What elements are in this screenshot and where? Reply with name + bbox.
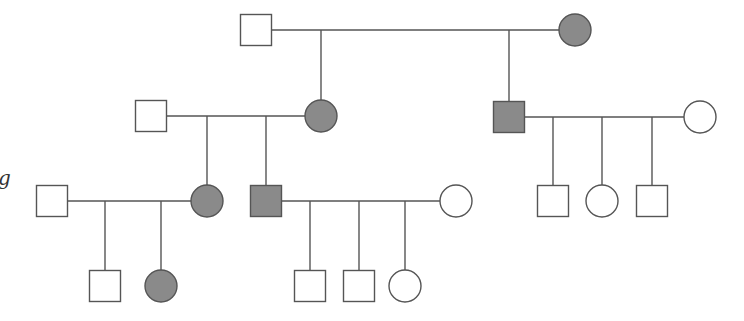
unaffected-male-iv-1 — [90, 271, 121, 302]
unaffected-male-ii-1 — [136, 101, 167, 132]
unaffected-female-ii-4 — [684, 101, 716, 133]
unaffected-male-iii-7 — [637, 186, 668, 217]
unaffected-female-iv-5 — [389, 270, 421, 302]
affected-male-ii-3 — [494, 102, 525, 133]
unaffected-male-iii-5 — [538, 186, 569, 217]
unaffected-male-iii-1 — [37, 186, 68, 217]
affected-female-iii-2 — [191, 185, 223, 217]
relationship-lines — [67, 30, 684, 271]
unaffected-female-iii-6 — [586, 185, 618, 217]
unaffected-male-iv-4 — [344, 271, 375, 302]
affected-female-iv-2 — [145, 270, 177, 302]
affected-female-ii-2 — [305, 100, 337, 132]
unaffected-male-i-1 — [241, 15, 272, 46]
unaffected-male-iv-3 — [295, 271, 326, 302]
affected-male-iii-3 — [251, 186, 282, 217]
unaffected-female-iii-4 — [440, 185, 472, 217]
pedigree-chart — [0, 0, 744, 321]
individuals — [37, 14, 717, 302]
affected-female-i-2 — [559, 14, 591, 46]
